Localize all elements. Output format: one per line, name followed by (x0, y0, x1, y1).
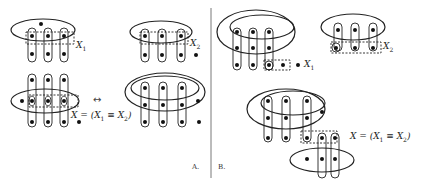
panel-a-bottom-right (125, 73, 205, 127)
label-merged-b: X = (X1 ≡ X2) (350, 132, 410, 143)
label-x2-b: X2 (383, 42, 393, 53)
hypergraph-diagram (0, 0, 426, 189)
panel-b-top-right (321, 14, 385, 53)
label-x2-a: X2 (190, 39, 200, 50)
panel-b-top-left (217, 10, 295, 70)
label-merged-a: X = (X1 ≡ X2) (71, 111, 131, 122)
panel-b-bottom (247, 89, 354, 178)
panel-a-top-left (11, 19, 75, 62)
panel-label-b: B. (218, 164, 225, 171)
label-x1-a: X1 (76, 41, 86, 52)
panel-label-a: A. (192, 164, 199, 171)
equivalence-arrow-icon: ↔ (93, 95, 101, 105)
label-x1-b: X1 (304, 60, 314, 71)
